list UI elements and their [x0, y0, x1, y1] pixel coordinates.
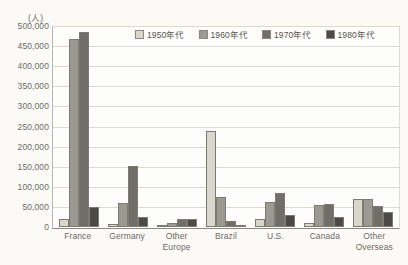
bar: [167, 223, 177, 227]
legend-swatch-icon: [326, 30, 335, 39]
x-axis-label-line: Brazil: [201, 231, 250, 242]
bar: [89, 207, 99, 227]
legend-item: 1960年代: [199, 28, 249, 40]
bar: [216, 197, 226, 227]
y-axis-tick-label: 100,000: [18, 182, 49, 192]
x-axis-label-line: U.S.: [251, 231, 300, 242]
y-axis-tick-label: 300,000: [18, 101, 49, 111]
y-axis-tick-label: 200,000: [18, 142, 49, 152]
bar: [79, 32, 89, 227]
bar: [206, 131, 216, 227]
x-axis-labels: FranceGermanyOtherEuropeBrazilU.S.Canada…: [53, 231, 399, 252]
legend-item: 1980年代: [326, 28, 376, 40]
y-axis-tick-label: 150,000: [18, 162, 49, 172]
y-axis-tick-label: 50,000: [22, 202, 49, 212]
bar: [138, 217, 148, 227]
bar: [285, 215, 295, 227]
y-axis-tick-label: 450,000: [18, 41, 49, 51]
bar: [265, 202, 275, 227]
legend-swatch-icon: [262, 30, 271, 39]
bar: [69, 39, 79, 227]
bar-group: [349, 28, 398, 227]
bar-group: [201, 28, 250, 227]
bar-group: [300, 28, 349, 227]
x-axis-label-line: France: [53, 231, 102, 242]
y-axis-tick-label: 350,000: [18, 81, 49, 91]
bar-group: [251, 28, 300, 227]
bar: [304, 223, 314, 227]
legend-swatch-icon: [135, 30, 144, 39]
gridline: 500,000: [53, 26, 399, 27]
legend-item: 1950年代: [135, 28, 185, 40]
x-axis-label-line: Other: [152, 231, 201, 242]
y-axis-tick-label: 400,000: [18, 61, 49, 71]
bar: [226, 221, 236, 227]
x-axis-label-line: Other: [350, 231, 399, 242]
x-axis-tick-label: Canada: [300, 231, 349, 252]
bar-group: [54, 28, 103, 227]
bar: [236, 225, 246, 227]
x-axis-label-line: Canada: [300, 231, 349, 242]
plot-area: 050,000100,000150,000200,000250,000300,0…: [52, 26, 400, 229]
x-axis-tick-label: France: [53, 231, 102, 252]
y-axis-tick-label: 250,000: [18, 122, 49, 132]
bar: [118, 203, 128, 227]
gridline: 0: [53, 227, 399, 228]
bar: [128, 166, 138, 227]
legend-label: 1950年代: [147, 28, 185, 40]
legend-item: 1970年代: [262, 28, 312, 40]
x-axis-label-line: Germany: [102, 231, 151, 242]
x-axis-tick-label: OtherEurope: [152, 231, 201, 252]
legend-label: 1980年代: [338, 28, 376, 40]
bar: [177, 219, 187, 227]
bars-layer: [54, 28, 398, 227]
x-axis-label-line: Overseas: [350, 242, 399, 253]
x-axis-tick-label: U.S.: [251, 231, 300, 252]
bar: [187, 219, 197, 227]
bar: [275, 193, 285, 227]
bar-group: [103, 28, 152, 227]
x-axis-tick-label: Brazil: [201, 231, 250, 252]
bar: [363, 199, 373, 227]
bar: [373, 206, 383, 227]
x-axis-label-line: Europe: [152, 242, 201, 253]
y-axis-tick-label: 500,000: [18, 21, 49, 31]
bar: [383, 212, 393, 227]
bar-group: [152, 28, 201, 227]
bar: [255, 219, 265, 227]
bar: [314, 205, 324, 227]
bar: [324, 204, 334, 227]
bar: [157, 225, 167, 227]
legend: 1950年代1960年代1970年代1980年代: [135, 28, 375, 40]
legend-label: 1960年代: [211, 28, 249, 40]
bar: [353, 199, 363, 227]
bar: [334, 217, 344, 227]
legend-label: 1970年代: [274, 28, 312, 40]
bar: [59, 219, 69, 227]
y-axis-tick-label: 0: [44, 222, 49, 232]
x-axis-tick-label: Germany: [102, 231, 151, 252]
bar: [108, 224, 118, 227]
x-axis-tick-label: OtherOverseas: [350, 231, 399, 252]
legend-swatch-icon: [199, 30, 208, 39]
bar-chart: (人) 050,000100,000150,000200,000250,0003…: [0, 0, 408, 265]
